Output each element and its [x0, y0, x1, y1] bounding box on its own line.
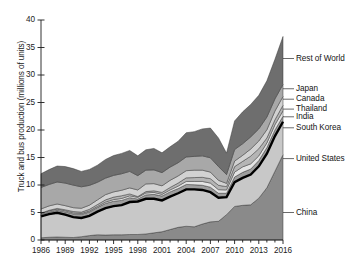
legend-label-china: China	[296, 208, 317, 217]
stacked-area-plot	[0, 0, 350, 265]
legend-label-canada: Canada	[296, 94, 324, 103]
chart-root: Truck and bus production (millions of un…	[0, 0, 350, 265]
legend-label-south-korea: South Korea	[296, 123, 341, 132]
legend-label-rest-of-world: Rest of World	[296, 54, 345, 63]
legend-label-united-states: United States	[296, 154, 345, 163]
legend-label-japan: Japan	[296, 84, 318, 93]
legend-label-india: India	[296, 112, 314, 121]
